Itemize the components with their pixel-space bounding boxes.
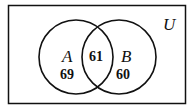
venn-diagram: U A 69 61 B 60 [0,0,195,111]
intersection-count: 61 [89,49,103,64]
universe-label: U [163,15,177,34]
set-b-label: B [121,47,132,66]
set-b-only-count: 60 [116,67,130,82]
set-a-label: A [61,47,73,66]
set-a-only-count: 69 [60,67,74,82]
